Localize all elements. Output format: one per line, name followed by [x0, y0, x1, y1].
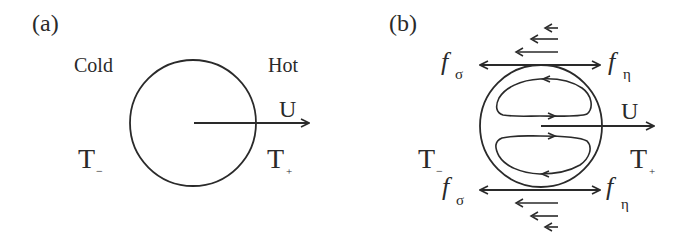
svg-text:η: η [623, 66, 631, 82]
panel-b: (b) f σ f η U [389, 10, 655, 227]
f-sigma-bottom-label: f σ [442, 172, 464, 208]
hot-label: Hot [268, 54, 298, 76]
internal-circulation-lower [496, 133, 590, 177]
surface-flow-arrows-bottom [518, 203, 558, 227]
panel-a-label: (a) [32, 10, 59, 36]
f-eta-bottom-label: f η [606, 172, 629, 212]
svg-text:f: f [608, 47, 619, 76]
svg-text:f: f [442, 172, 453, 201]
t-minus-label: T − [78, 143, 103, 178]
t-plus-label: T + [630, 143, 655, 177]
cold-label: Cold [74, 54, 113, 76]
panel-b-label: (b) [389, 10, 417, 36]
t-minus-label: T − [418, 143, 443, 178]
f-sigma-top-label: f σ [441, 47, 463, 82]
svg-text:+: + [649, 165, 655, 177]
velocity-label: U [621, 98, 638, 124]
svg-text:σ: σ [456, 192, 464, 208]
svg-text:T: T [267, 143, 284, 174]
svg-text:σ: σ [455, 66, 463, 82]
svg-text:T: T [78, 143, 95, 174]
svg-text:η: η [621, 196, 629, 212]
svg-text:T: T [418, 143, 435, 174]
diagram: (a) Cold Hot U T − T + (b) f σ f [0, 0, 689, 243]
svg-text:T: T [630, 143, 647, 174]
surface-flow-arrows-top [518, 28, 558, 52]
svg-text:f: f [606, 172, 617, 201]
velocity-label: U [279, 96, 296, 122]
t-plus-label: T + [267, 143, 292, 177]
internal-circulation-upper [497, 76, 591, 119]
panel-a: (a) Cold Hot U T − T + [32, 10, 309, 186]
svg-text:+: + [286, 165, 292, 177]
f-eta-top-label: f η [608, 47, 631, 82]
svg-text:f: f [441, 47, 452, 76]
svg-text:−: − [96, 164, 103, 178]
